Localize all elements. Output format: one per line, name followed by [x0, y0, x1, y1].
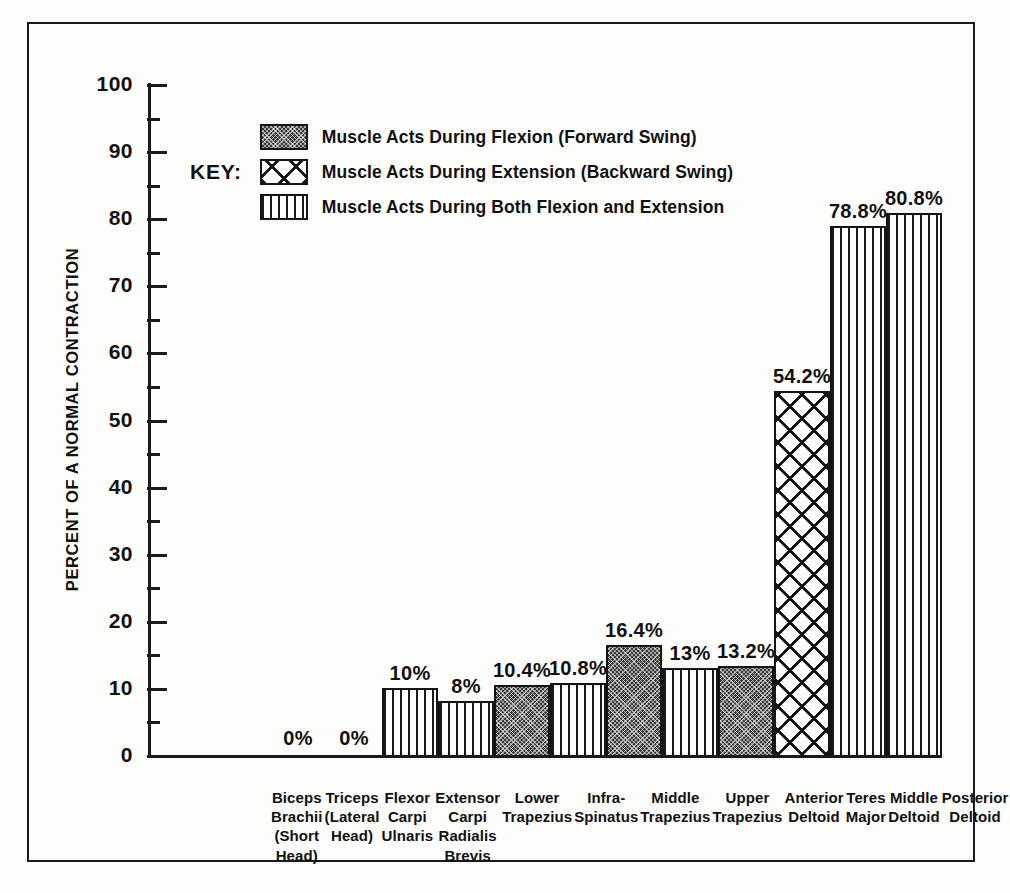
figure-border: PERCENT OF A NORMAL CONTRACTION 01020304…: [27, 22, 975, 862]
y-axis-tick-major: 0: [147, 755, 167, 758]
y-axis-tick-minor: [147, 587, 160, 590]
legend-label: Muscle Acts During Both Flexion and Exte…: [322, 197, 725, 218]
y-axis-tick-label: 10: [109, 676, 133, 700]
y-axis-tick-major: 100: [147, 84, 167, 87]
x-axis-category-label: LowerTrapezius: [501, 788, 573, 826]
y-axis-tick-major: 20: [147, 621, 167, 624]
bar-slot: 54.2%: [774, 84, 830, 755]
x-axis-label-line: Deltoid: [888, 808, 940, 825]
x-axis-category-label: BicepsBrachii(ShortHead): [270, 788, 324, 865]
x-axis-label-line: Deltoid: [949, 808, 1001, 825]
bar-value-label: 13.2%: [717, 640, 775, 663]
y-axis-tick-major: 80: [147, 218, 167, 221]
x-axis-label-line: Extensor: [435, 789, 500, 806]
y-axis-tick-minor: [147, 319, 160, 322]
x-axis-label-line: Carpi: [448, 808, 487, 825]
y-axis-tick-minor: [147, 185, 160, 188]
y-axis-title: PERCENT OF A NORMAL CONTRACTION: [60, 84, 86, 755]
bar-value-label: 54.2%: [773, 365, 831, 388]
y-axis-tick-major: 30: [147, 554, 167, 557]
x-axis-category-label: Triceps(LateralHead): [324, 788, 381, 846]
x-axis-category-label: AnteriorDeltoid: [784, 788, 845, 826]
x-axis-label-line: Head): [331, 827, 373, 844]
y-axis-tick-major: 70: [147, 285, 167, 288]
x-axis-label-line: Trapezius: [502, 808, 572, 825]
legend-rows: Muscle Acts During Flexion (Forward Swin…: [260, 124, 733, 220]
legend-swatch-flexion: [260, 124, 308, 150]
bar-value-label: 10.4%: [493, 659, 551, 682]
bar[interactable]: 10.8%: [550, 683, 606, 755]
y-axis-title-text: PERCENT OF A NORMAL CONTRACTION: [64, 248, 83, 591]
bar[interactable]: 80.8%: [886, 213, 942, 755]
x-axis-label-line: Middle: [890, 789, 938, 806]
x-axis-labels: BicepsBrachii(ShortHead)Triceps(LateralH…: [270, 788, 942, 865]
legend-swatch-both: [260, 194, 308, 220]
bar[interactable]: 16.4%: [606, 645, 662, 755]
x-axis-label-line: Radialis: [438, 827, 496, 844]
x-axis-label-line: Teres: [846, 789, 885, 806]
x-axis-label-line: Triceps: [325, 789, 378, 806]
x-axis-label-line: Flexor: [385, 789, 431, 806]
y-axis-tick-minor: [147, 118, 160, 121]
x-axis-label-line: Brevis: [444, 847, 490, 864]
y-axis-tick-major: 50: [147, 420, 167, 423]
x-axis-label-line: Upper: [726, 789, 770, 806]
x-axis-label-line: Lower: [515, 789, 560, 806]
y-axis-tick-label: 70: [109, 273, 133, 297]
bar-slot: 78.8%: [830, 84, 886, 755]
bar-value-label: 0%: [283, 727, 313, 750]
bar-value-label: 10%: [390, 662, 431, 685]
y-axis-tick-minor: [147, 386, 160, 389]
y-axis-tick-minor: [147, 453, 160, 456]
x-axis-category-label: UpperTrapezius: [711, 788, 783, 826]
y-axis-tick-major: 10: [147, 688, 167, 691]
x-axis-label-line: Infra-: [587, 789, 625, 806]
y-axis-tick-label: 40: [109, 475, 133, 499]
bar[interactable]: 8%: [438, 701, 494, 755]
bar[interactable]: 13%: [662, 668, 718, 755]
y-axis-tick-major: 40: [147, 487, 167, 490]
legend-swatch-extension: [260, 159, 308, 185]
legend-item-both[interactable]: Muscle Acts During Both Flexion and Exte…: [260, 194, 733, 220]
y-axis-tick-major: 60: [147, 352, 167, 355]
bar-value-label: 10.8%: [549, 657, 607, 680]
x-axis-category-label: TeresMajor: [845, 788, 888, 826]
bar[interactable]: 13.2%: [718, 666, 774, 755]
x-axis-label-line: Biceps: [272, 789, 322, 806]
bar[interactable]: 10%: [382, 688, 438, 755]
bar-value-label: 13%: [670, 642, 711, 665]
x-axis-category-label: Infra-Spinatus: [573, 788, 639, 826]
x-axis-label-line: Anterior: [785, 789, 844, 806]
x-axis-label-line: Trapezius: [712, 808, 782, 825]
x-axis-label-line: Ulnaris: [382, 827, 434, 844]
bar[interactable]: 54.2%: [774, 391, 830, 755]
y-axis-tick-label: 80: [109, 206, 133, 230]
x-axis-label-line: Head): [276, 847, 318, 864]
bar-value-label: 16.4%: [605, 619, 663, 642]
legend-item-flexion[interactable]: Muscle Acts During Flexion (Forward Swin…: [260, 124, 733, 150]
x-axis-category-label: PosteriorDeltoid: [941, 788, 1010, 826]
y-axis-tick-label: 0: [121, 743, 133, 767]
bar[interactable]: 78.8%: [830, 226, 886, 755]
x-axis-label-line: Carpi: [388, 808, 427, 825]
x-axis-label-line: (Lateral: [325, 808, 380, 825]
x-axis-label-line: Spinatus: [574, 808, 638, 825]
y-axis-tick-label: 20: [109, 609, 133, 633]
legend-label: Muscle Acts During Flexion (Forward Swin…: [322, 127, 697, 148]
x-axis-label-line: Brachii: [271, 808, 323, 825]
legend-item-extension[interactable]: Muscle Acts During Extension (Backward S…: [260, 159, 733, 185]
x-axis-label-line: Posterior: [942, 789, 1009, 806]
x-axis-label-line: (Short: [274, 827, 319, 844]
y-axis-tick-label: 50: [109, 408, 133, 432]
y-axis-tick-label: 30: [109, 542, 133, 566]
legend-label: Muscle Acts During Extension (Backward S…: [322, 162, 733, 183]
y-axis-tick-minor: [147, 520, 160, 523]
x-axis-baseline: [148, 755, 942, 758]
x-axis-label-line: Middle: [651, 789, 699, 806]
y-axis-tick-label: 90: [109, 139, 133, 163]
y-axis-tick-label: 100: [96, 72, 133, 96]
y-axis-tick-minor: [147, 252, 160, 255]
bar-value-label: 0%: [339, 727, 369, 750]
x-axis-label-line: Trapezius: [640, 808, 710, 825]
bar[interactable]: 10.4%: [494, 685, 550, 755]
